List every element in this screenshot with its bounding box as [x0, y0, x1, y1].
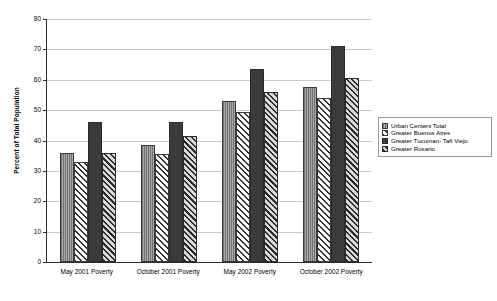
bar-group: [210, 19, 291, 262]
bar: [303, 87, 317, 262]
legend-item[interactable]: Greater Tucuman- Tafi Viejo: [382, 138, 488, 144]
legend-swatch-icon: [382, 138, 388, 144]
y-tick-label: 60: [34, 77, 41, 84]
bar: [222, 101, 236, 262]
x-axis-label: May 2002 Poverty: [209, 268, 291, 275]
y-axis-title-label: Percent of Total Population: [13, 87, 20, 174]
bar: [102, 153, 116, 262]
x-axis-label: October 2001 Poverty: [128, 268, 210, 275]
y-tick-label: 10: [34, 228, 41, 235]
bar-group: [291, 19, 372, 262]
legend-item-label: Greater Tucuman- Tafi Viejo: [391, 138, 468, 144]
x-axis-label: October 2002 Poverty: [291, 268, 373, 275]
legend-swatch-icon: [382, 123, 388, 129]
bar: [250, 69, 264, 262]
legend-item[interactable]: Greater Rosario: [382, 146, 488, 152]
x-axis-labels: May 2001 PovertyOctober 2001 PovertyMay …: [46, 268, 372, 275]
y-tick-label: 30: [34, 168, 41, 175]
legend-swatch-icon: [382, 130, 388, 136]
bar: [60, 153, 74, 262]
bar: [141, 145, 155, 262]
legend: Urban Centers TotalGreater Buenos AiresG…: [378, 117, 492, 157]
bar: [74, 162, 88, 262]
bar: [264, 92, 278, 262]
y-tick-mark: [43, 262, 47, 263]
bar: [183, 136, 197, 262]
bars-layer: [47, 19, 372, 262]
bar: [88, 122, 102, 262]
bar: [236, 112, 250, 262]
y-tick-label: 80: [34, 16, 41, 23]
y-tick-label: 0: [37, 259, 41, 266]
plot-area: 01020304050607080: [46, 19, 372, 263]
legend-item-label: Urban Centers Total: [391, 123, 446, 129]
legend-item[interactable]: Greater Buenos Aires: [382, 130, 488, 136]
y-tick-label: 50: [34, 107, 41, 114]
bar: [169, 122, 183, 262]
legend-item[interactable]: Urban Centers Total: [382, 123, 488, 129]
bar: [317, 98, 331, 262]
x-axis-label: May 2001 Poverty: [46, 268, 128, 275]
bar: [345, 78, 359, 262]
bar-group: [128, 19, 209, 262]
bar-group: [47, 19, 128, 262]
legend-item-label: Greater Rosario: [391, 146, 435, 152]
bar: [331, 46, 345, 262]
y-axis-title: Percent of Total Population: [8, 0, 24, 260]
bar-chart: Percent of Total Population 010203040506…: [0, 0, 497, 301]
bar: [155, 154, 169, 262]
y-tick-label: 70: [34, 46, 41, 53]
legend-item-label: Greater Buenos Aires: [391, 130, 450, 136]
legend-swatch-icon: [382, 146, 388, 152]
y-tick-label: 20: [34, 198, 41, 205]
y-tick-label: 40: [34, 137, 41, 144]
